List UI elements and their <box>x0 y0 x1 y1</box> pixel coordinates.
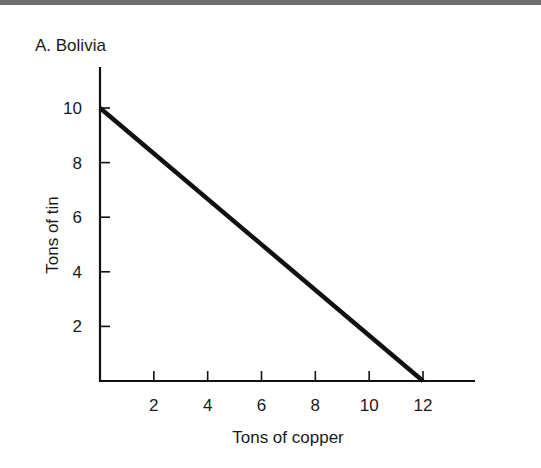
y-tick-label: 2 <box>73 317 82 336</box>
x-tick-label: 2 <box>149 396 158 415</box>
chart-plot-area: 24681012 246810 Tons of copper Tons of t… <box>0 0 541 468</box>
x-axis-ticks: 24681012 <box>149 371 432 415</box>
x-tick-label: 8 <box>311 396 320 415</box>
y-axis-ticks: 246810 <box>63 99 110 336</box>
y-tick-label: 8 <box>73 154 82 173</box>
x-tick-label: 12 <box>414 396 433 415</box>
y-axis-title: Tons of tin <box>43 196 62 274</box>
ppf-line <box>100 108 423 381</box>
x-axis-title: Tons of copper <box>232 428 344 447</box>
x-tick-label: 4 <box>203 396 212 415</box>
x-tick-label: 10 <box>360 396 379 415</box>
x-tick-label: 6 <box>257 396 266 415</box>
y-tick-label: 4 <box>73 263 82 282</box>
y-tick-label: 10 <box>63 99 82 118</box>
data-series <box>100 108 423 381</box>
y-tick-label: 6 <box>73 208 82 227</box>
axes <box>99 67 475 381</box>
